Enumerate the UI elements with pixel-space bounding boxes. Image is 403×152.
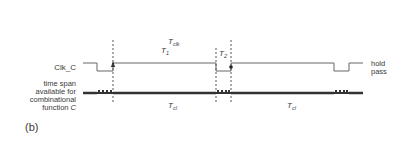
signal-label: Clk_C: [54, 63, 76, 72]
clock-waveform: [83, 63, 363, 71]
bumpy-segment-3: [334, 90, 349, 93]
label-t-2: T2: [219, 49, 227, 59]
bumpy-segment-1: [97, 90, 113, 93]
label-t-cl-1: Tcl: [168, 101, 178, 111]
panel-label: (b): [25, 121, 38, 133]
label-t-1: T1: [161, 46, 169, 56]
label-t-clk: Tclk: [168, 37, 180, 47]
state-label-pass: pass: [371, 67, 387, 76]
timing-diagram: Clk_C time span available for combinatio…: [0, 0, 403, 152]
bumpy-segment-2: [216, 90, 231, 93]
label-t-cl-2: Tcl: [287, 101, 297, 111]
span-label-line-4: function C: [42, 103, 76, 112]
